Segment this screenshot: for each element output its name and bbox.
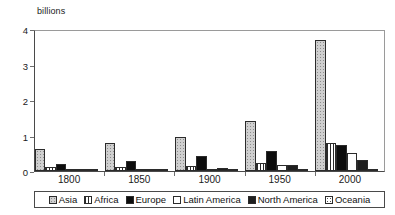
legend-item-latin-america[interactable]: Latin America xyxy=(173,194,241,205)
legend-swatch-north-america-icon xyxy=(248,196,256,204)
y-axis-unit-caption: billions xyxy=(37,6,65,16)
bar-oceania-1800 xyxy=(87,169,98,171)
bar-north-america-1850 xyxy=(147,169,158,171)
bar-latin-america-2000 xyxy=(347,153,358,171)
legend-item-africa[interactable]: Africa xyxy=(84,194,118,205)
bar-africa-1850 xyxy=(115,167,126,171)
x-tick-mark-1850 xyxy=(174,172,175,176)
bar-latin-america-1950 xyxy=(277,165,288,171)
bar-asia-2000 xyxy=(315,40,326,171)
bar-latin-america-1900 xyxy=(207,169,218,171)
y-tick-mark xyxy=(30,137,34,138)
legend-label-north-america: North America xyxy=(258,194,318,205)
bar-north-america-1950 xyxy=(287,165,298,171)
bar-europe-1950 xyxy=(266,151,277,171)
legend-label-oceania: Oceania xyxy=(335,194,370,205)
bar-africa-2000 xyxy=(326,143,337,171)
bar-oceania-1850 xyxy=(157,169,168,171)
bar-group-1950 xyxy=(245,31,308,171)
y-tick-mark xyxy=(30,30,34,31)
bar-oceania-1950 xyxy=(298,169,309,171)
bar-asia-1800 xyxy=(35,149,46,171)
y-tick-mark xyxy=(30,172,34,173)
x-tick-label-1850: 1850 xyxy=(128,174,150,185)
legend-label-europe: Europe xyxy=(136,194,167,205)
bar-asia-1950 xyxy=(245,121,256,171)
bar-europe-1900 xyxy=(196,156,207,171)
x-tick-mark-1800 xyxy=(104,172,105,176)
legend-item-europe[interactable]: Europe xyxy=(126,194,167,205)
legend-swatch-asia-icon xyxy=(49,196,57,204)
bar-europe-1850 xyxy=(126,161,137,171)
bar-europe-1800 xyxy=(56,164,67,171)
legend: AsiaAfricaEuropeLatin AmericaNorth Ameri… xyxy=(34,191,385,208)
x-tick-label-1800: 1800 xyxy=(58,174,80,185)
legend-item-north-america[interactable]: North America xyxy=(248,194,318,205)
bar-europe-2000 xyxy=(336,145,347,171)
bar-group-1900 xyxy=(175,31,238,171)
y-tick-mark xyxy=(30,66,34,67)
plot-area xyxy=(34,30,385,172)
legend-swatch-europe-icon xyxy=(126,196,134,204)
legend-swatch-africa-icon xyxy=(84,196,92,204)
bar-group-2000 xyxy=(315,31,378,171)
bar-north-america-2000 xyxy=(357,160,368,171)
y-tick-label-4: 4 xyxy=(23,25,28,36)
x-tick-label-2000: 2000 xyxy=(339,174,361,185)
legend-item-asia[interactable]: Asia xyxy=(49,194,77,205)
legend-label-latin-america: Latin America xyxy=(183,194,241,205)
y-tick-label-0: 0 xyxy=(23,167,28,178)
bar-latin-america-1800 xyxy=(66,169,77,171)
chart-root: billions 01234 18001850190019502000 Asia… xyxy=(0,0,395,215)
legend-label-asia: Asia xyxy=(59,194,77,205)
plot-inner xyxy=(35,31,384,171)
bar-north-america-1900 xyxy=(217,168,228,171)
y-tick-label-1: 1 xyxy=(23,131,28,142)
bar-latin-america-1850 xyxy=(136,169,147,171)
y-tick-mark xyxy=(30,101,34,102)
y-tick-label-3: 3 xyxy=(23,60,28,71)
bar-asia-1900 xyxy=(175,137,186,171)
bar-africa-1900 xyxy=(186,166,197,171)
legend-label-africa: Africa xyxy=(94,194,118,205)
bar-africa-1800 xyxy=(45,167,56,171)
x-tick-mark-1950 xyxy=(315,172,316,176)
x-tick-label-1900: 1900 xyxy=(198,174,220,185)
legend-swatch-oceania-icon xyxy=(325,196,333,204)
legend-swatch-latin-america-icon xyxy=(173,196,181,204)
bar-oceania-2000 xyxy=(368,169,379,171)
bar-africa-1950 xyxy=(256,163,267,171)
bar-group-1850 xyxy=(105,31,168,171)
x-tick-mark-1900 xyxy=(245,172,246,176)
bar-oceania-1900 xyxy=(228,169,239,171)
legend-item-oceania[interactable]: Oceania xyxy=(325,194,370,205)
y-tick-label-2: 2 xyxy=(23,96,28,107)
bar-group-1800 xyxy=(35,31,98,171)
x-tick-label-1950: 1950 xyxy=(269,174,291,185)
bar-north-america-1800 xyxy=(77,169,88,171)
bar-asia-1850 xyxy=(105,143,116,171)
